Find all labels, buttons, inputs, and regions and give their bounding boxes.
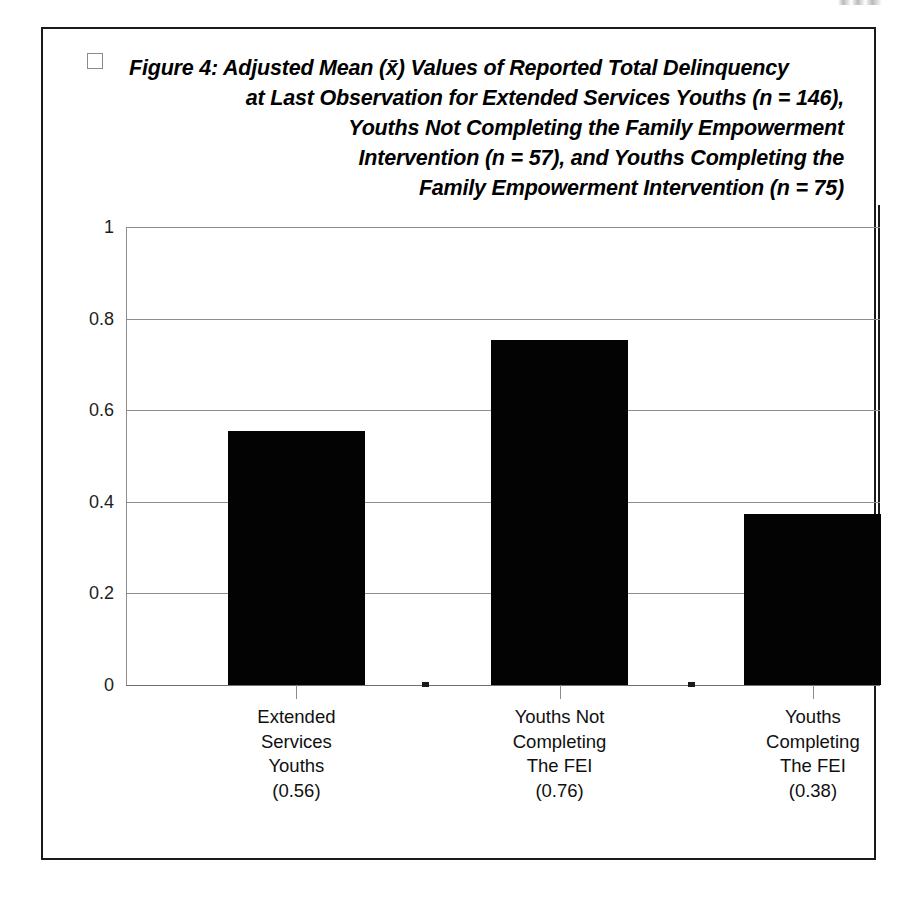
y-tick-label-1: 1 xyxy=(104,217,114,238)
figure-title-block: Figure 4: Adjusted Mean (x̄) Values of R… xyxy=(43,29,878,203)
category-label-2: Youths Completing The FEI (0.38) xyxy=(766,705,860,803)
title-line-2: at Last Observation for Extended Service… xyxy=(129,83,844,113)
bar-youths-completing-fei[interactable] xyxy=(744,514,881,685)
title-line-3: Youths Not Completing the Family Empower… xyxy=(129,113,844,143)
x-axis-category-labels: Extended Services Youths (0.56) Youths N… xyxy=(126,705,880,825)
title-line-5: Family Empowerment Intervention (n = 75) xyxy=(129,173,844,203)
figure-frame: Figure 4: Adjusted Mean (x̄) Values of R… xyxy=(41,27,876,860)
square-bullet-icon xyxy=(87,53,103,69)
y-tick-label-0_8: 0.8 xyxy=(89,308,114,329)
page-title: Figure 4: Adjusted Mean (x̄) Values of R… xyxy=(43,41,878,203)
gridline-0_8 xyxy=(126,319,880,320)
category-label-0: Extended Services Youths (0.56) xyxy=(257,705,335,803)
category-label-1: Youths Not Completing The FEI (0.76) xyxy=(513,705,607,803)
title-line-1: Figure 4: Adjusted Mean (x̄) Values of R… xyxy=(129,53,844,83)
x-tick-2 xyxy=(813,685,814,699)
y-tick-label-0: 0 xyxy=(104,675,114,696)
y-tick-label-0_2: 0.2 xyxy=(89,583,114,604)
baseline-minor-tick-left xyxy=(422,682,429,687)
y-tick-label-0_6: 0.6 xyxy=(89,400,114,421)
baseline-minor-tick-right xyxy=(688,682,695,687)
x-tick-0 xyxy=(296,685,297,699)
gridline-0-baseline xyxy=(126,685,880,686)
y-axis-line xyxy=(126,227,127,685)
title-line-4: Intervention (n = 57), and Youths Comple… xyxy=(129,143,844,173)
x-tick-1 xyxy=(560,685,561,699)
bar-youths-not-completing-fei[interactable] xyxy=(491,340,628,685)
bar-extended-services-youths[interactable] xyxy=(228,431,365,685)
bar-chart-plot-area: 1 0.8 0.6 0.4 0.2 0 xyxy=(126,227,880,685)
gridline-1 xyxy=(126,227,880,228)
clipped-page-number-artifact: . xyxy=(838,0,882,5)
y-tick-label-0_4: 0.4 xyxy=(89,491,114,512)
